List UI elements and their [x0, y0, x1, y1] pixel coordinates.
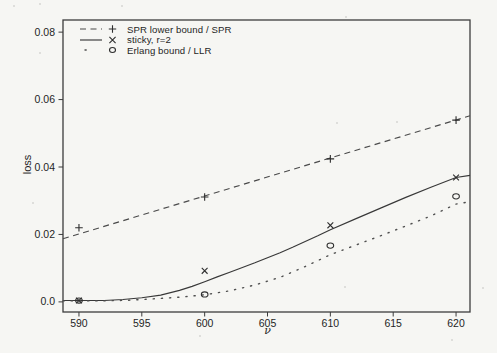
circle-marker-icon: [106, 45, 119, 55]
x-axis-title: ν: [259, 324, 276, 337]
circle-marker: [453, 194, 460, 199]
cross-marker: [327, 222, 333, 228]
scan-noise-speck: [396, 121, 398, 123]
y-tick-label: 0.06: [35, 93, 56, 105]
loss-vs-nu-chart: 5905956006056106156200.00.020.040.060.08…: [0, 0, 497, 353]
y-tick-label: 0.08: [35, 26, 56, 38]
scan-noise-speck: [39, 3, 41, 5]
scan-noise-speck: [345, 16, 347, 18]
x-tick-label: 590: [70, 317, 88, 329]
legend: SPR lower bound / SPR sticky, r=2 Erlang…: [80, 24, 231, 56]
scan-noise-speck: [451, 339, 453, 341]
y-tick-label: 0.02: [35, 228, 56, 240]
plus-marker: [201, 193, 209, 201]
legend-row-erlang: Erlang bound / LLR: [80, 45, 231, 56]
legend-row-spr: SPR lower bound / SPR: [80, 24, 231, 35]
legend-label-erlang: Erlang bound / LLR: [127, 45, 211, 56]
cross-marker: [202, 268, 208, 274]
scan-noise-speck: [13, 5, 15, 7]
y-axis-title: loss: [21, 150, 34, 180]
scan-noise-speck: [344, 286, 346, 288]
scan-noise-speck: [199, 335, 201, 337]
y-tick-label: 0.0: [40, 295, 55, 307]
legend-label-sticky: sticky, r=2: [127, 34, 171, 45]
x-tick-label: 620: [447, 317, 465, 329]
plot-canvas: 5905956006056106156200.00.020.040.060.08: [0, 0, 497, 353]
solid-line-sample-icon: [80, 35, 102, 45]
x-tick-label: 610: [322, 317, 340, 329]
scan-noise-speck: [32, 202, 34, 204]
dashed-line-sample-icon: [80, 24, 102, 34]
scan-noise-speck: [482, 287, 484, 289]
series-line-0: [63, 116, 470, 239]
x-tick-label: 595: [133, 317, 151, 329]
scan-noise-speck: [39, 52, 41, 54]
circle-marker: [327, 243, 334, 248]
plot-frame: [63, 20, 470, 312]
dotted-line-sample-icon: [80, 45, 102, 55]
x-tick-label: 600: [196, 317, 214, 329]
y-tick-label: 0.04: [35, 161, 56, 173]
legend-row-sticky: sticky, r=2: [80, 35, 231, 46]
scan-noise-speck: [121, 5, 123, 7]
scan-noise-speck: [336, 122, 338, 124]
series-line-2: [63, 202, 470, 301]
plus-marker: [75, 224, 83, 232]
x-tick-label: 615: [384, 317, 402, 329]
plus-marker: [452, 116, 460, 124]
cross-marker-icon: [106, 35, 119, 45]
legend-label-spr: SPR lower bound / SPR: [127, 24, 231, 35]
plus-marker: [327, 155, 335, 163]
plus-marker-icon: [106, 24, 119, 34]
